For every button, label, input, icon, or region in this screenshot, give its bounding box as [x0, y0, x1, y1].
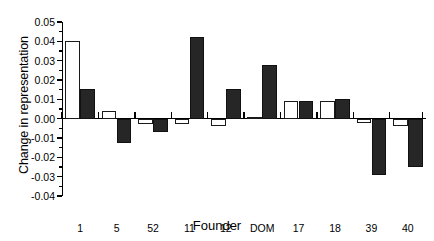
y-tick-minor: [59, 50, 62, 51]
bar-open-39: [357, 119, 372, 123]
bar-filled-1: [80, 89, 95, 119]
y-tick-label: 0.05: [35, 16, 55, 28]
y-tick-label: 0.01: [35, 93, 55, 105]
y-tick-minor: [59, 89, 62, 90]
bar-open-52: [138, 119, 153, 125]
x-tick: [316, 112, 317, 119]
bar-open-11: [175, 119, 190, 125]
bar-filled-5: [117, 119, 132, 143]
bar-chart: Change in representation 0.050.040.030.0…: [0, 0, 434, 241]
bar-open-1: [65, 41, 80, 118]
bar-filled-18: [335, 99, 350, 118]
x-tick: [243, 112, 244, 119]
x-tick: [61, 112, 62, 119]
bar-filled-17: [299, 101, 314, 118]
y-tick-minor: [59, 70, 62, 71]
plot-area: 0.050.040.030.020.010.00-0.01-0.02-0.03-…: [62, 22, 426, 196]
y-tick-minor: [59, 166, 62, 167]
bar-filled-39: [372, 119, 387, 175]
y-tick-minor: [59, 31, 62, 32]
bar-filled-11: [190, 37, 205, 118]
y-tick-minor: [59, 128, 62, 129]
y-tick-major: [57, 99, 62, 100]
y-axis-title: Change in representation: [17, 5, 31, 205]
y-axis-line: [62, 22, 63, 196]
bar-open-18: [320, 101, 335, 118]
y-tick-major: [57, 79, 62, 80]
x-tick: [98, 112, 99, 119]
y-tick-major: [57, 21, 62, 22]
bar-open-DOM: [247, 117, 262, 119]
y-tick-major: [57, 176, 62, 177]
y-tick-major: [57, 157, 62, 158]
y-tick-label: -0.01: [31, 132, 55, 144]
y-tick-minor: [59, 147, 62, 148]
y-tick-label: 0.00: [35, 113, 55, 125]
bar-filled-DOM: [262, 65, 277, 119]
x-tick: [422, 112, 423, 119]
bar-filled-52: [153, 119, 168, 133]
y-tick-major: [57, 137, 62, 138]
y-tick-major: [57, 60, 62, 61]
x-tick: [171, 112, 172, 119]
bar-filled-40: [408, 119, 423, 167]
bar-open-12: [211, 119, 226, 127]
y-tick-label: 0.02: [35, 74, 55, 86]
x-tick: [207, 112, 208, 119]
y-tick-label: -0.04: [31, 190, 55, 202]
bar-open-5: [102, 111, 117, 119]
bar-open-17: [284, 101, 299, 118]
y-tick-label: 0.04: [35, 35, 55, 47]
y-tick-minor: [59, 108, 62, 109]
y-tick-label: 0.03: [35, 55, 55, 67]
y-tick-label: -0.03: [31, 171, 55, 183]
x-tick: [280, 112, 281, 119]
x-axis-title: Founder: [0, 218, 434, 233]
x-tick: [389, 112, 390, 119]
y-tick-major: [57, 41, 62, 42]
y-tick-label: -0.02: [31, 151, 55, 163]
y-tick-major: [57, 195, 62, 196]
y-tick-minor: [59, 186, 62, 187]
bar-filled-12: [226, 89, 241, 119]
bar-open-40: [393, 119, 408, 127]
x-tick: [134, 112, 135, 119]
x-tick: [353, 112, 354, 119]
